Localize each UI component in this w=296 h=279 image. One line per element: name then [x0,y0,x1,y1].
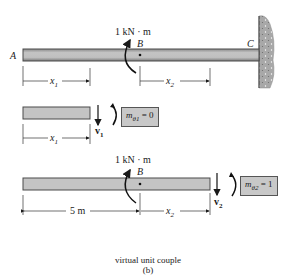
point-b-dot-seg2 [139,183,142,186]
dim-x2-seg2-label: x2 [166,206,174,220]
dim-5m-label: 5 m [70,206,85,216]
segment-2-beam [23,178,210,190]
dim-x2-top [140,66,210,86]
shear-v1-label: v1 [95,126,104,140]
moment-label-top: 1 kN · m [115,27,151,37]
wall-support [259,16,274,88]
point-b-dot [139,54,142,57]
moment-box-seg2: mθ2 = 1 [240,176,278,196]
shear-v2-label: v2 [214,197,223,211]
dim-x1-label: x1 [50,76,58,90]
point-a-label: A [10,51,16,61]
moment-arrow-seg2-end [231,174,236,196]
dim-x1-seg1-label: x1 [50,133,58,147]
moment-label-seg2: 1 kN · m [115,155,151,165]
figure-caption: virtual unit couple [0,255,296,265]
point-b-seg2-label: B [137,167,143,177]
moment-arrow-seg1 [112,105,116,125]
dim-x2-label: x2 [166,76,174,90]
dim-x2-seg2 [141,193,210,215]
moment-box-seg1: mθ1 = 0 [121,107,159,127]
point-b-label: B [137,39,143,49]
figure-sublabel: (b) [0,265,296,275]
segment-1-beam [23,107,90,119]
moment-arrowhead-seg1 [110,103,115,108]
moment-arrowhead-seg2 [229,172,234,177]
point-c-label: C [247,39,254,49]
